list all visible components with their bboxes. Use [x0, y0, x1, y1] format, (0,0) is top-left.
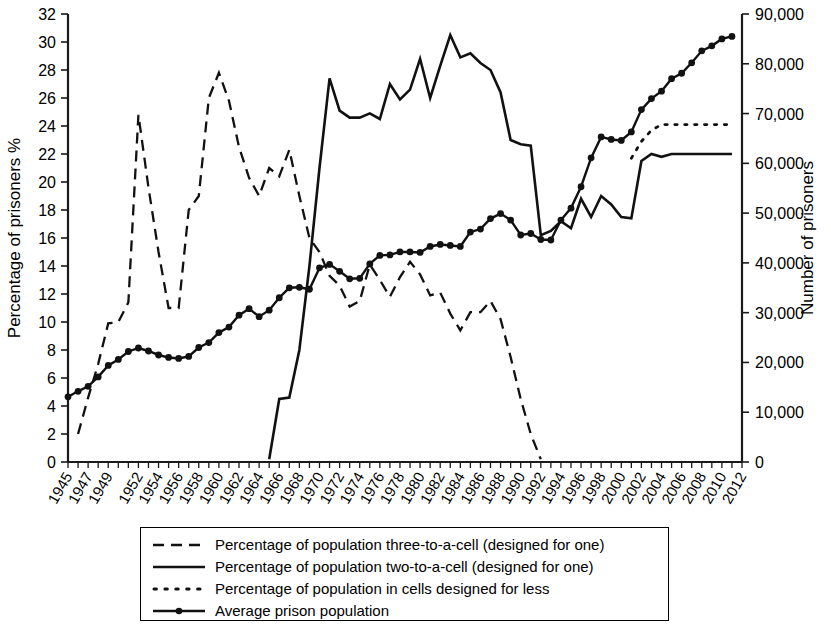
y-tick-label-left: 8 [47, 342, 56, 359]
y-tick-label-left: 12 [38, 286, 56, 303]
legend-item: Average prison population [151, 600, 668, 621]
data-point-marker [387, 252, 394, 259]
data-point-marker [698, 47, 705, 54]
y-axis-title-left: Percentage of prisoners % [5, 138, 24, 338]
data-point-marker [588, 154, 595, 161]
data-point-marker [175, 355, 182, 362]
data-point-marker [608, 136, 615, 143]
y-tick-label-right: 90,000 [755, 6, 804, 23]
data-point-marker [306, 286, 313, 293]
data-point-marker [407, 249, 414, 256]
y-tick-label-left: 28 [38, 62, 56, 79]
data-point-marker [447, 242, 454, 249]
data-point-marker [366, 260, 373, 267]
y-tick-label-right: 50,000 [755, 205, 804, 222]
data-point-marker [266, 307, 273, 314]
y-tick-label-right: 70,000 [755, 106, 804, 123]
y-tick-label-left: 10 [38, 314, 56, 331]
data-point-marker [115, 356, 122, 363]
data-point-marker [527, 230, 534, 237]
y-tick-label-left: 26 [38, 90, 56, 107]
y-tick-label-left: 18 [38, 202, 56, 219]
data-point-marker [105, 362, 112, 369]
data-point-marker [185, 353, 192, 360]
data-point-marker [537, 236, 544, 243]
data-point-marker [628, 129, 635, 136]
data-point-marker [517, 232, 524, 239]
legend-label-two-to-a-cell: Percentage of population two-to-a-cell (… [215, 559, 594, 574]
data-point-marker [558, 217, 565, 224]
legend-item: Percentage of population in cells design… [151, 578, 668, 599]
y-tick-label-left: 30 [38, 34, 56, 51]
y-tick-label-right: 20,000 [755, 354, 804, 371]
data-point-marker [417, 249, 424, 256]
chart-legend: Percentage of population three-to-a-cell… [140, 527, 669, 621]
data-point-marker [256, 313, 263, 320]
data-point-marker [95, 373, 102, 380]
y-tick-label-left: 16 [38, 230, 56, 247]
data-point-marker [145, 348, 152, 355]
legend-swatch-solid [151, 559, 207, 575]
data-point-marker [75, 388, 82, 395]
legend-label-three-to-a-cell: Percentage of population three-to-a-cell… [215, 537, 604, 552]
y-tick-label-left: 32 [38, 6, 56, 23]
data-point-marker [65, 393, 72, 400]
data-point-marker [216, 329, 223, 336]
data-point-marker [276, 294, 283, 301]
data-point-marker [718, 35, 725, 42]
y-axis-title-right: Number of prisoners [798, 161, 817, 315]
data-point-marker [397, 249, 404, 256]
data-point-marker [226, 324, 233, 331]
y-tick-label-left: 22 [38, 146, 56, 163]
data-point-marker [457, 243, 464, 250]
data-point-marker [618, 137, 625, 144]
data-point-marker [437, 241, 444, 248]
y-tick-label-right: 30,000 [755, 305, 804, 322]
legend-label-average-prison-population: Average prison population [215, 603, 389, 618]
data-point-marker [376, 252, 383, 259]
y-tick-label-left: 0 [47, 454, 56, 471]
data-point-marker [658, 88, 665, 95]
data-point-marker [326, 261, 333, 268]
data-point-marker [568, 205, 575, 212]
data-point-marker [85, 383, 92, 390]
data-point-marker [547, 237, 554, 244]
legend-item: Percentage of population three-to-a-cell… [151, 534, 668, 555]
legend-swatch-markers [151, 603, 207, 619]
data-point-marker [155, 352, 162, 359]
data-point-marker [296, 284, 303, 291]
data-point-marker [236, 312, 243, 319]
y-tick-label-right: 10,000 [755, 404, 804, 421]
y-tick-label-right: 0 [755, 454, 764, 471]
data-point-marker [336, 268, 343, 275]
data-point-marker [497, 210, 504, 217]
data-point-marker [125, 348, 132, 355]
data-point-marker [668, 75, 675, 82]
y-tick-label-left: 20 [38, 174, 56, 191]
y-tick-label-left: 2 [47, 426, 56, 443]
data-point-marker [729, 33, 736, 40]
y-tick-label-left: 6 [47, 370, 56, 387]
data-point-marker [708, 42, 715, 49]
data-point-marker [205, 339, 212, 346]
data-point-marker [598, 134, 605, 141]
legend-swatch-dashed [151, 537, 207, 553]
data-point-marker [135, 345, 142, 352]
legend-item: Percentage of population two-to-a-cell (… [151, 556, 668, 577]
legend-swatch-dotted [151, 581, 207, 597]
data-point-marker [316, 264, 323, 271]
legend-label-designed-for-less: Percentage of population in cells design… [215, 581, 549, 596]
data-point-marker [648, 95, 655, 102]
data-point-marker [195, 344, 202, 351]
y-tick-label-left: 24 [38, 118, 56, 135]
series-two-to-a-cell [269, 35, 732, 459]
y-tick-label-right: 40,000 [755, 255, 804, 272]
data-point-marker [346, 275, 353, 282]
data-point-marker [578, 183, 585, 190]
data-point-marker [487, 215, 494, 222]
y-tick-label-left: 4 [47, 398, 56, 415]
y-tick-label-right: 60,000 [755, 155, 804, 172]
data-point-marker [507, 217, 514, 224]
data-point-marker [246, 305, 253, 312]
chart-figure: 02468101214161820222426283032010,00020,0… [0, 0, 831, 628]
